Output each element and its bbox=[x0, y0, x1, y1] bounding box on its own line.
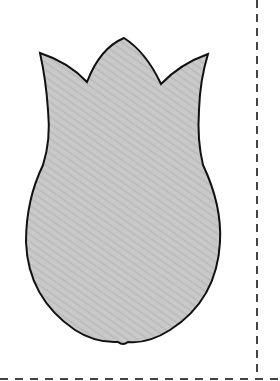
tulip-template-canvas: Tulip cut-out template bbox=[0, 0, 280, 381]
tulip-shape bbox=[26, 38, 220, 344]
